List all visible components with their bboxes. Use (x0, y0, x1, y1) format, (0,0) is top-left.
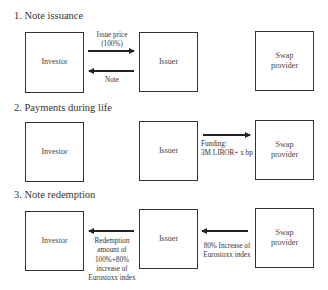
arrows-layer (0, 0, 328, 290)
